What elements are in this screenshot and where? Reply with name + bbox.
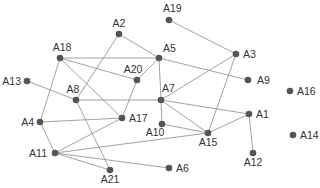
- node-label-a18: A18: [53, 41, 72, 53]
- edge-a11-a15: [55, 133, 208, 153]
- node-a11: [52, 150, 59, 157]
- node-a16: [287, 88, 294, 95]
- node-a5: [156, 55, 163, 62]
- node-label-a15: A15: [199, 136, 218, 148]
- node-label-a5: A5: [163, 42, 176, 54]
- edge-a5-a9: [159, 58, 248, 80]
- node-a18: [57, 55, 64, 62]
- node-a19: [166, 17, 173, 24]
- edge-a11-a17: [55, 118, 122, 153]
- node-a20: [134, 77, 141, 84]
- node-a14: [290, 132, 297, 139]
- node-label-a7: A7: [162, 82, 175, 94]
- node-label-a21: A21: [101, 173, 120, 185]
- node-a6: [166, 165, 173, 172]
- edge-a2-a8: [76, 34, 119, 100]
- edge-a7-a10: [161, 100, 162, 124]
- node-label-a19: A19: [163, 2, 182, 14]
- node-label-a4: A4: [21, 116, 34, 128]
- node-label-a20: A20: [124, 63, 143, 75]
- node-label-a8: A8: [67, 83, 80, 95]
- node-a13: [24, 78, 31, 85]
- node-label-a9: A9: [257, 74, 270, 86]
- node-a9: [245, 77, 252, 84]
- node-a7: [158, 97, 165, 104]
- node-a2: [116, 31, 123, 38]
- node-a4: [37, 119, 44, 126]
- node-a1: [246, 111, 253, 118]
- node-label-a1: A1: [256, 108, 269, 120]
- edge-a1-a12: [249, 114, 253, 153]
- edge-a7-a1: [161, 100, 249, 114]
- network-graph: A1A2A3A4A5A6A7A8A9A10A11A12A13A14A15A16A…: [0, 0, 320, 188]
- edge-a11-a21: [55, 153, 110, 170]
- node-label-a16: A16: [297, 85, 316, 97]
- edge-a5-a7: [159, 58, 161, 100]
- node-a3: [233, 51, 240, 58]
- node-label-a3: A3: [243, 48, 256, 60]
- node-a8: [73, 97, 80, 104]
- node-label-a17: A17: [129, 112, 148, 124]
- node-label-a12: A12: [244, 156, 263, 168]
- node-label-a10: A10: [146, 126, 165, 138]
- edge-a11-a6: [55, 153, 169, 168]
- node-a17: [119, 115, 126, 122]
- node-label-a14: A14: [300, 129, 319, 141]
- node-label-a13: A13: [2, 75, 21, 87]
- edge-a2-a5: [119, 34, 159, 58]
- edge-a1-a15: [208, 114, 249, 133]
- edge-a19-a3: [169, 20, 236, 54]
- node-label-a11: A11: [29, 147, 47, 159]
- node-label-a6: A6: [176, 162, 189, 174]
- edge-a3-a15: [208, 54, 236, 133]
- node-label-a2: A2: [113, 17, 126, 29]
- edge-a4-a17: [40, 118, 122, 122]
